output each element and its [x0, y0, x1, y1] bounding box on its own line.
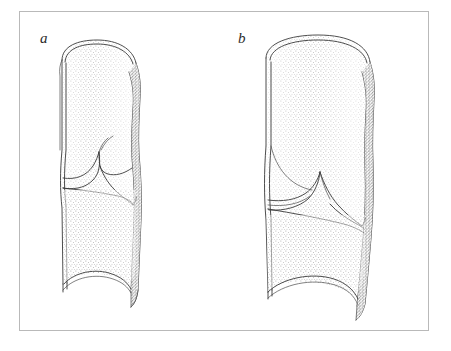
panel-b-dilated-vein [258, 26, 376, 320]
panel-label-b: b [238, 30, 246, 47]
panel-a-normal-vein [55, 30, 150, 307]
anatomical-illustration [0, 0, 451, 351]
panel-label-a: a [40, 30, 48, 47]
figure-root: a b Longitudinal sections of two vein se… [0, 0, 451, 351]
